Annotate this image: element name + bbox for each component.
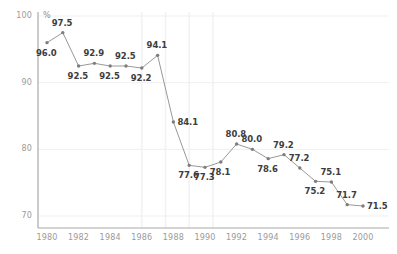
x-tick-label-1996: 1996	[283, 233, 317, 242]
y-tick-label-70: 70	[10, 211, 32, 220]
value-label-2000: 71.5	[367, 201, 388, 211]
value-label-1984: 92.5	[99, 71, 120, 81]
data-point-1984	[109, 64, 112, 67]
value-label-1985: 92.5	[115, 51, 136, 61]
data-point-1983	[93, 62, 96, 65]
data-point-1992	[235, 142, 238, 145]
x-tick-label-1984: 1984	[93, 233, 127, 242]
x-tick-label-2000: 2000	[346, 233, 380, 242]
value-label-1997: 75.2	[305, 186, 326, 196]
value-label-1999: 71.7	[336, 190, 357, 200]
value-label-1982: 92.5	[68, 71, 89, 81]
chart-plot-area	[0, 0, 397, 254]
value-label-1998: 75.1	[320, 167, 341, 177]
data-point-1982	[77, 64, 80, 67]
data-point-1994	[267, 157, 270, 160]
data-point-1986	[140, 66, 143, 69]
value-label-1988: 84.1	[177, 117, 198, 127]
x-tick-label-1994: 1994	[251, 233, 285, 242]
data-point-1999	[346, 203, 349, 206]
data-point-1985	[124, 64, 127, 67]
value-label-1995: 79.2	[273, 140, 294, 150]
value-label-1987: 94.1	[147, 40, 168, 50]
data-point-2000	[361, 204, 364, 207]
x-tick-label-1990: 1990	[188, 233, 222, 242]
value-label-1991: 78.1	[210, 167, 231, 177]
data-point-1989	[188, 164, 191, 167]
x-tick-label-1980: 1980	[30, 233, 64, 242]
data-point-1981	[61, 31, 64, 34]
value-label-1981: 97.5	[52, 18, 73, 28]
data-point-1996	[298, 166, 301, 169]
x-tick-label-1998: 1998	[314, 233, 348, 242]
data-point-1988	[172, 120, 175, 123]
y-axis-unit-label: %	[43, 11, 51, 20]
data-point-1987	[156, 54, 159, 57]
value-label-1993: 80.0	[241, 134, 262, 144]
data-point-1993	[251, 148, 254, 151]
value-label-1986: 92.2	[131, 73, 152, 83]
x-tick-label-1992: 1992	[220, 233, 254, 242]
y-tick-label-100: 100	[10, 11, 32, 20]
x-tick-label-1986: 1986	[125, 233, 159, 242]
x-tick-label-1988: 1988	[156, 233, 190, 242]
y-tick-label-80: 80	[10, 144, 32, 153]
value-label-1980: 96.0	[36, 48, 57, 58]
value-label-1994: 78.6	[257, 164, 278, 174]
data-point-1997	[314, 180, 317, 183]
data-point-1995	[282, 153, 285, 156]
line-chart: % 708090100 1980198219841986198819901992…	[0, 0, 397, 254]
value-label-1983: 92.9	[83, 48, 104, 58]
data-point-1991	[219, 160, 222, 163]
y-tick-label-90: 90	[10, 78, 32, 87]
data-point-1980	[45, 41, 48, 44]
data-point-1998	[330, 180, 333, 183]
x-tick-label-1982: 1982	[62, 233, 96, 242]
value-label-1996: 77.2	[289, 153, 310, 163]
data-point-1990	[203, 166, 206, 169]
